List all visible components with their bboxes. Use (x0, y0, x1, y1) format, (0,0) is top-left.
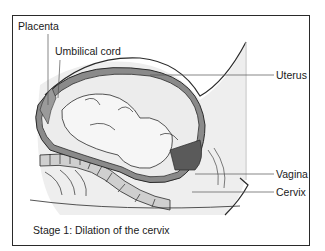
diagram-caption: Stage 1: Dilation of the cervix (33, 224, 170, 236)
label-cervix: Cervix (276, 186, 306, 198)
label-umbilical-cord: Umbilical cord (55, 45, 121, 57)
labor-stage-illustration (0, 0, 325, 251)
label-vagina: Vagina (276, 168, 308, 180)
label-uterus: Uterus (276, 69, 307, 81)
label-placenta: Placenta (18, 20, 59, 32)
